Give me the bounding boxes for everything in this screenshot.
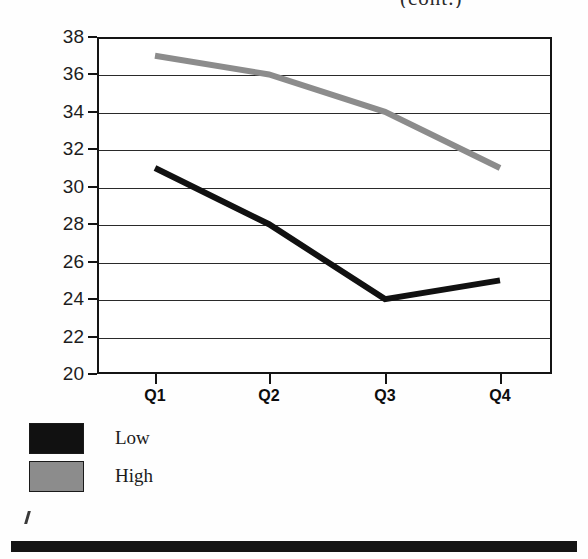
y-tick-mark-32 bbox=[88, 148, 97, 150]
y-tick-label-24: 24 bbox=[40, 288, 84, 310]
x-tick-label-Q4: Q4 bbox=[470, 387, 530, 405]
y-tick-label-36: 36 bbox=[40, 63, 84, 85]
y-tick-mark-24 bbox=[88, 298, 97, 300]
legend-label-high: High bbox=[115, 465, 153, 487]
y-tick-mark-30 bbox=[88, 186, 97, 188]
x-tick-label-Q1: Q1 bbox=[125, 387, 185, 405]
bottom-rule bbox=[11, 541, 577, 552]
gridline-22 bbox=[99, 338, 550, 339]
y-tick-mark-36 bbox=[88, 73, 97, 75]
y-tick-label-20: 20 bbox=[40, 363, 84, 385]
y-tick-label-32: 32 bbox=[40, 138, 84, 160]
x-tick-mark-Q2 bbox=[269, 374, 271, 384]
gridline-30 bbox=[99, 188, 550, 189]
gridline-32 bbox=[99, 150, 550, 151]
gridline-28 bbox=[99, 225, 550, 226]
legend: Low High bbox=[29, 419, 153, 495]
gridline-34 bbox=[99, 113, 550, 114]
x-tick-label-Q3: Q3 bbox=[355, 387, 415, 405]
y-tick-mark-34 bbox=[88, 111, 97, 113]
y-tick-label-38: 38 bbox=[40, 26, 84, 48]
gridline-36 bbox=[99, 75, 550, 76]
y-tick-label-26: 26 bbox=[40, 251, 84, 273]
page-root: (cont.) 20222426283032343638 Q1Q2Q3Q4 Lo… bbox=[0, 0, 588, 559]
y-tick-mark-22 bbox=[88, 336, 97, 338]
x-tick-mark-Q3 bbox=[385, 374, 387, 384]
gridline-26 bbox=[99, 263, 550, 264]
x-tick-mark-Q4 bbox=[500, 374, 502, 384]
y-tick-label-30: 30 bbox=[40, 176, 84, 198]
legend-label-low: Low bbox=[115, 427, 150, 449]
y-tick-mark-26 bbox=[88, 261, 97, 263]
y-tick-mark-20 bbox=[88, 373, 97, 375]
y-tick-mark-28 bbox=[88, 223, 97, 225]
y-tick-label-34: 34 bbox=[40, 101, 84, 123]
x-tick-mark-Q1 bbox=[155, 374, 157, 384]
legend-item-high: High bbox=[29, 457, 153, 495]
y-tick-label-22: 22 bbox=[40, 326, 84, 348]
legend-item-low: Low bbox=[29, 419, 153, 457]
legend-swatch-high bbox=[29, 461, 84, 492]
y-tick-label-28: 28 bbox=[40, 213, 84, 235]
legend-swatch-low bbox=[29, 423, 84, 454]
gridline-24 bbox=[99, 300, 550, 301]
title-fragment: (cont.) bbox=[400, 0, 580, 8]
plot-area bbox=[97, 37, 552, 374]
x-tick-label-Q2: Q2 bbox=[239, 387, 299, 405]
scan-artifact-mark bbox=[24, 511, 31, 524]
y-tick-mark-38 bbox=[88, 36, 97, 38]
